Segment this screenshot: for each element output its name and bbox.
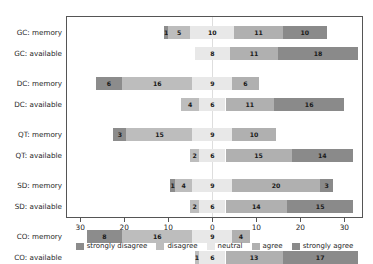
bar-segment-agree (226, 98, 274, 111)
bar-segment-agree (232, 128, 276, 141)
bar-segment-agree (226, 149, 292, 162)
bar-row: 81118 (67, 47, 362, 60)
x-axis-tick-label: 30 (68, 223, 92, 233)
legend-item[interactable]: strongly agree (292, 242, 354, 251)
plot-inner: 1510111081118616964611163159102615141492… (67, 17, 362, 217)
x-axis-tick-mark (256, 218, 257, 222)
legend-label: disagree (167, 242, 197, 251)
legend-item[interactable]: neutral (207, 242, 243, 251)
bar-segment-neutral (195, 47, 230, 60)
bar-segment-disagree (126, 128, 192, 141)
bar-row: 61696 (67, 77, 362, 90)
bar-segment-disagree (181, 98, 199, 111)
legend-swatch-icon (207, 243, 215, 250)
legend-label: neutral (218, 242, 243, 251)
bar-segment-agree (230, 47, 278, 60)
bar-row: 461116 (67, 98, 362, 111)
x-axis-tick-mark (212, 218, 213, 222)
x-axis: 3020100102030 (66, 218, 363, 236)
y-axis-tick-labels: GC: memoryGC: availableDC: memoryDC: ava… (0, 16, 62, 218)
bar-segment-disagree (175, 179, 193, 192)
legend-swatch-icon (156, 243, 164, 250)
bar-segment-strongly-agree (283, 26, 327, 39)
x-axis-tick-mark (80, 218, 81, 222)
legend-item[interactable]: disagree (156, 242, 197, 251)
plot-area: 1510111081118616964611163159102615141492… (66, 16, 363, 218)
bar-row: 315910 (67, 128, 362, 141)
y-axis-tick-label: SD: available (0, 202, 62, 211)
bar-segment-neutral (190, 26, 234, 39)
bar-segment-strongly-agree (287, 200, 353, 213)
x-axis-tick-label: 10 (156, 223, 180, 233)
legend-label: strongly disagree (87, 242, 148, 251)
bar-row: 149203 (67, 179, 362, 192)
bar-segment-agree (232, 77, 258, 90)
bar-row: 261514 (67, 149, 362, 162)
bar-segment-strongly-disagree (96, 77, 122, 90)
x-axis-tick-mark (300, 218, 301, 222)
bar-segment-strongly-disagree (113, 128, 126, 141)
x-axis-tick-label: 20 (288, 223, 312, 233)
chart-legend: strongly disagreedisagreeneutralagreestr… (66, 239, 363, 253)
x-axis-tick-label: 30 (332, 223, 356, 233)
bar-segment-strongly-agree (274, 98, 344, 111)
bar-segment-agree (232, 179, 320, 192)
bar-segment-disagree (122, 77, 192, 90)
bar-segment-strongly-agree (320, 179, 333, 192)
bar-segment-neutral (192, 128, 232, 141)
bar-segment-disagree (168, 26, 190, 39)
y-axis-tick-label: QT: memory (0, 130, 62, 139)
x-axis-tick-mark (168, 218, 169, 222)
bar-segment-agree (234, 26, 282, 39)
bar-segment-neutral (192, 77, 232, 90)
legend-swatch-icon (292, 243, 300, 250)
x-axis-tick-mark (124, 218, 125, 222)
legend-item[interactable]: strongly disagree (76, 242, 148, 251)
x-axis-tick-label: 10 (244, 223, 268, 233)
x-axis-tick-label: 0 (200, 223, 224, 233)
y-axis-tick-label: CO: memory (0, 232, 62, 241)
legend-label: strongly agree (303, 242, 354, 251)
bar-segment-agree (226, 200, 288, 213)
y-axis-tick-label: DC: memory (0, 79, 62, 88)
y-axis-tick-label: DC: available (0, 100, 62, 109)
legend-swatch-icon (76, 243, 84, 250)
x-axis-tick-label: 20 (112, 223, 136, 233)
bar-segment-neutral (199, 200, 225, 213)
y-axis-tick-label: SD: memory (0, 181, 62, 190)
bar-segment-neutral (192, 179, 232, 192)
legend-swatch-icon (252, 243, 260, 250)
y-axis-tick-label: QT: available (0, 151, 62, 160)
y-axis-tick-label: GC: available (0, 49, 62, 58)
bar-segment-neutral (199, 149, 225, 162)
x-axis-tick-mark (344, 218, 345, 222)
legend-item[interactable]: agree (252, 242, 283, 251)
bar-row: 15101110 (67, 26, 362, 39)
bar-row: 261415 (67, 200, 362, 213)
bar-segment-strongly-agree (292, 149, 354, 162)
y-axis-tick-label: GC: memory (0, 28, 62, 37)
bar-segment-neutral (199, 98, 225, 111)
legend-label: agree (263, 242, 283, 251)
y-axis-tick-label: CO: available (0, 253, 62, 262)
bar-segment-disagree (190, 200, 199, 213)
bar-segment-disagree (190, 149, 199, 162)
bar-segment-strongly-agree (278, 47, 357, 60)
